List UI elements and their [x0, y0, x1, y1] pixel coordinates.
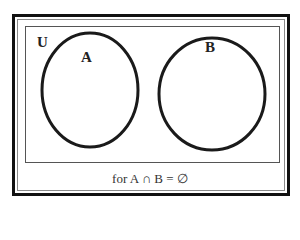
- diagram-caption: for A ∩ B = ∅: [0, 171, 300, 187]
- set-a-label: A: [81, 49, 92, 66]
- universe-label: U: [37, 34, 48, 51]
- set-b-label: B: [205, 39, 215, 56]
